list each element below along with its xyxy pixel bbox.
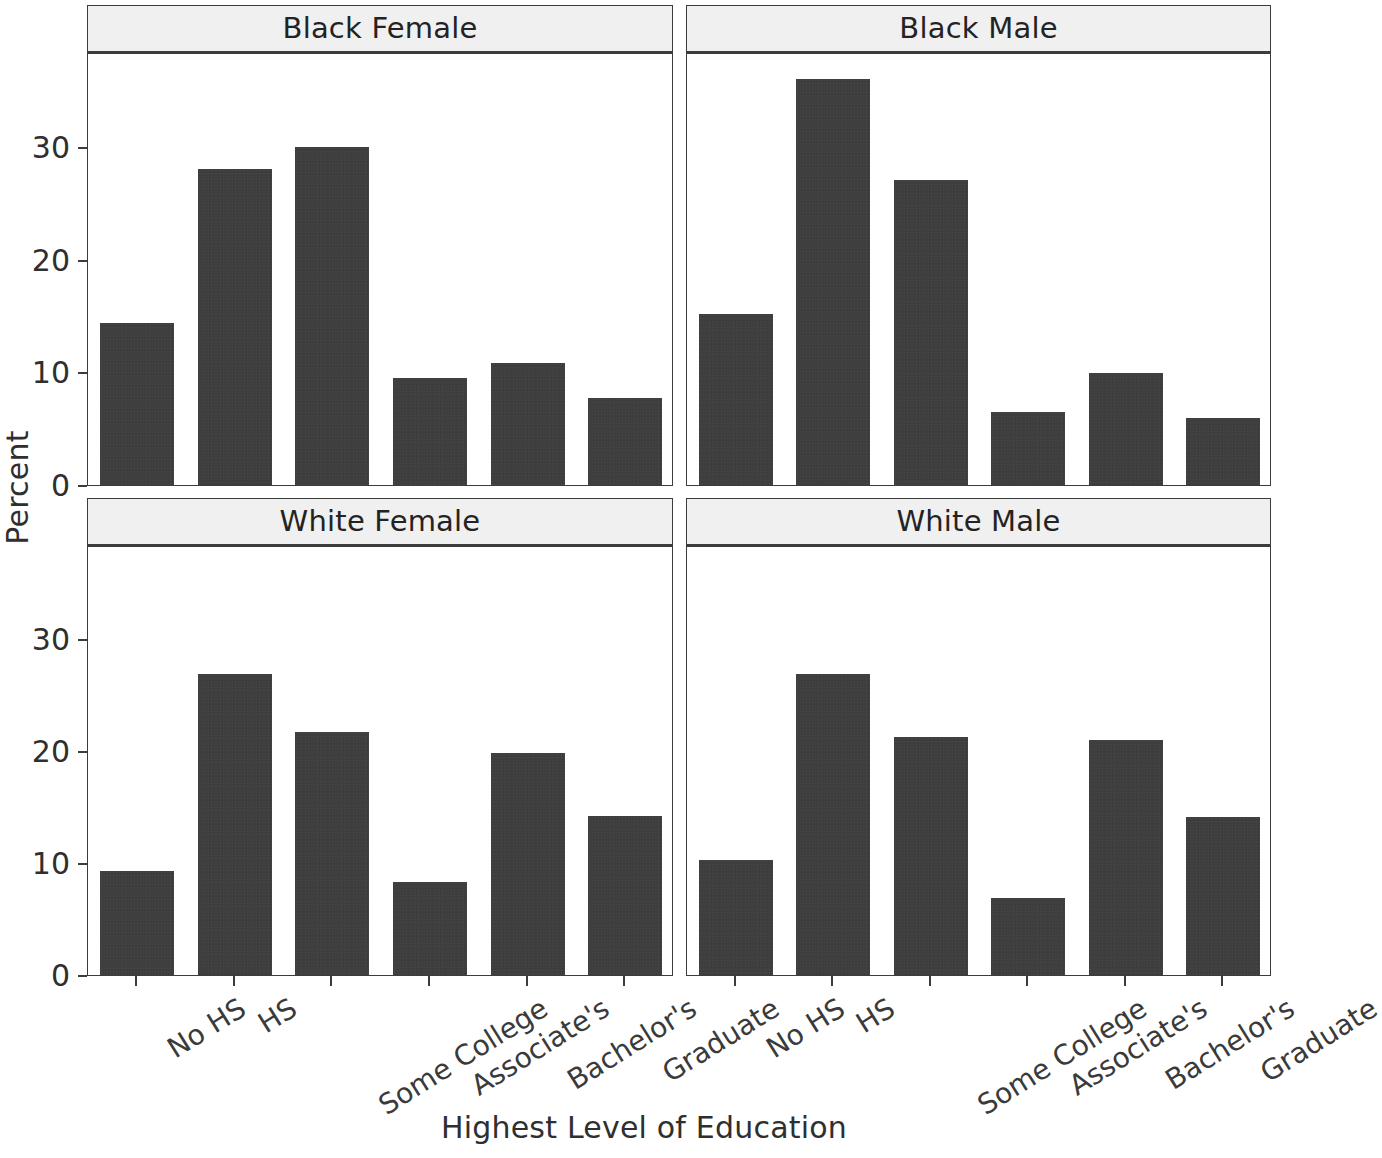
x-tick-label: No HS xyxy=(163,994,251,1063)
x-tick-label: HS xyxy=(254,994,302,1038)
x-tick-mark xyxy=(1221,976,1223,986)
y-tick-mark xyxy=(78,751,87,753)
y-tick-label: 0 xyxy=(0,471,70,501)
x-tick-mark xyxy=(623,976,625,986)
bar-group xyxy=(687,547,1270,975)
bar-white-male-0 xyxy=(699,860,773,975)
bar-white-female-3 xyxy=(393,882,467,975)
bar-black-female-3 xyxy=(393,378,467,485)
x-tick-mark xyxy=(1026,976,1028,986)
facet-strip-black-female: Black Female xyxy=(87,5,673,52)
facet-strip-white-male: White Male xyxy=(686,498,1271,545)
facet-panel-black-male: Black Male xyxy=(686,5,1271,486)
bar-black-female-2 xyxy=(295,147,369,485)
facet-panel-white-male: White Male xyxy=(686,498,1271,976)
y-tick-label: 10 xyxy=(0,849,70,879)
x-tick-mark xyxy=(1124,976,1126,986)
plot-area-white-male xyxy=(686,545,1271,976)
plot-area-black-male xyxy=(686,52,1271,486)
facet-panel-black-female: Black Female xyxy=(87,5,673,486)
y-tick-label: 0 xyxy=(0,961,70,991)
facet-title: Black Male xyxy=(899,14,1057,43)
bar-black-female-5 xyxy=(588,398,662,485)
x-tick-label: HS xyxy=(852,994,900,1038)
bar-white-female-2 xyxy=(295,732,369,975)
facet-title: Black Female xyxy=(283,14,478,43)
facet-panel-white-female: White Female xyxy=(87,498,673,976)
bar-black-female-1 xyxy=(198,169,272,485)
bar-white-male-5 xyxy=(1186,817,1260,975)
x-tick-mark xyxy=(831,976,833,986)
bar-black-male-0 xyxy=(699,314,773,485)
bar-white-female-4 xyxy=(491,753,565,975)
y-tick-mark xyxy=(78,485,87,487)
facet-strip-white-female: White Female xyxy=(87,498,673,545)
bar-white-male-3 xyxy=(991,898,1065,975)
bar-black-male-2 xyxy=(894,180,968,485)
bar-white-male-2 xyxy=(894,737,968,975)
plot-area-black-female xyxy=(87,52,673,486)
x-tick-mark xyxy=(734,976,736,986)
facet-strip-black-male: Black Male xyxy=(686,5,1271,52)
bar-black-male-1 xyxy=(796,79,870,485)
bar-black-female-0 xyxy=(100,323,174,485)
bar-black-male-3 xyxy=(991,412,1065,485)
y-tick-label: 30 xyxy=(0,625,70,655)
x-tick-mark xyxy=(135,976,137,986)
bar-group xyxy=(88,547,672,975)
bar-white-female-5 xyxy=(588,816,662,975)
y-tick-label: 20 xyxy=(0,246,70,276)
bar-white-male-4 xyxy=(1089,740,1163,975)
x-tick-mark xyxy=(233,976,235,986)
facet-title: White Female xyxy=(280,507,481,536)
bar-white-male-1 xyxy=(796,674,870,975)
x-tick-mark xyxy=(428,976,430,986)
x-axis-title: Highest Level of Education xyxy=(0,1110,1288,1145)
x-tick-mark xyxy=(526,976,528,986)
facet-title: White Male xyxy=(896,507,1060,536)
y-tick-mark xyxy=(78,260,87,262)
y-tick-label: 20 xyxy=(0,737,70,767)
y-tick-mark xyxy=(78,975,87,977)
y-tick-mark xyxy=(78,863,87,865)
bar-black-male-4 xyxy=(1089,373,1163,485)
y-tick-label: 10 xyxy=(0,358,70,388)
plot-area-white-female xyxy=(87,545,673,976)
y-tick-mark xyxy=(78,147,87,149)
bar-group xyxy=(88,54,672,485)
bar-white-female-1 xyxy=(198,674,272,975)
x-tick-mark xyxy=(929,976,931,986)
y-tick-mark xyxy=(78,639,87,641)
bar-group xyxy=(687,54,1270,485)
y-tick-label: 30 xyxy=(0,133,70,163)
x-tick-mark xyxy=(330,976,332,986)
bar-white-female-0 xyxy=(100,871,174,975)
bar-black-female-4 xyxy=(491,363,565,485)
y-tick-mark xyxy=(78,372,87,374)
bar-black-male-5 xyxy=(1186,418,1260,485)
